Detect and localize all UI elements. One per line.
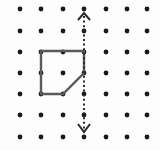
grid-dot-r6-c2	[61, 135, 66, 140]
grid-dot-r5-c0	[18, 113, 23, 118]
grid-dot-r4-c6	[145, 92, 150, 97]
grid-dot-r0-c0	[18, 7, 23, 12]
grid-dot-r4-c5	[125, 92, 130, 97]
grid-dot-r2-c4	[104, 50, 109, 55]
grid-dot-r5-c1	[39, 113, 44, 118]
grid-dot-r3-c0	[18, 71, 23, 76]
grid-dot-r1-c1	[39, 29, 44, 34]
grid-dot-r0-c2	[61, 7, 66, 12]
grid-dot-r1-c2	[61, 29, 66, 34]
grid-dot-r5-c4	[104, 113, 109, 118]
grid-dot-r0-c6	[145, 7, 150, 12]
grid-dot-r6-c0	[18, 135, 23, 140]
grid-dot-r3-c2	[61, 71, 66, 76]
grid-dot-r5-c6	[145, 113, 150, 118]
grid-dot-r6-c4	[104, 135, 109, 140]
grid-dot-r1-c4	[104, 29, 109, 34]
grid-dot-r1-c0	[18, 29, 23, 34]
grid-dot-r1-c6	[145, 29, 150, 34]
grid-dot-r0-c3	[82, 7, 87, 12]
grid-dot-r0-c5	[125, 7, 130, 12]
grid-dot-r3-c4	[104, 71, 109, 76]
grid-dot-r5-c2	[61, 113, 66, 118]
grid-dot-r6-c1	[39, 135, 44, 140]
grid-dot-r1-c5	[125, 29, 130, 34]
grid-dot-r6-c5	[125, 135, 130, 140]
grid-dot-r0-c1	[39, 7, 44, 12]
dot-grid-figure	[0, 0, 160, 150]
grid-dot-r3-c5	[125, 71, 130, 76]
grid-dot-r2-c6	[145, 50, 150, 55]
grid-dot-r2-c5	[125, 50, 130, 55]
grid-dot-r3-c6	[145, 71, 150, 76]
grid-dot-r5-c5	[125, 113, 130, 118]
figure-canvas	[0, 0, 160, 150]
grid-dot-r6-c3	[82, 135, 87, 140]
grid-dot-r4-c4	[104, 92, 109, 97]
grid-dot-r4-c0	[18, 92, 23, 97]
grid-dot-r2-c0	[18, 50, 23, 55]
grid-dot-r0-c4	[104, 7, 109, 12]
grid-dot-r6-c6	[145, 135, 150, 140]
